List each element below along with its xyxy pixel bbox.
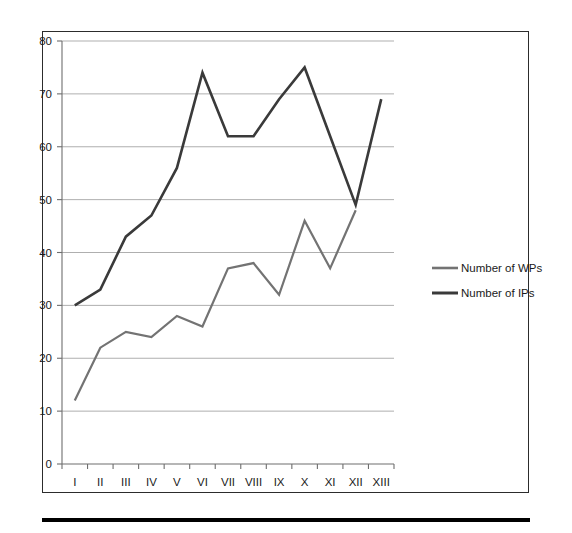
y-axis-tick-label: 40 [39,247,52,259]
y-axis-tick-label: 20 [39,352,52,364]
bottom-horizontal-rule [42,518,530,522]
x-axis-tick-label: I [73,476,76,488]
x-axis-tick-label: VI [197,476,208,488]
y-axis-group [57,41,62,464]
gridlines-group [62,41,394,411]
y-axis-tick-label: 60 [39,141,52,153]
y-axis-tick-label: 0 [46,458,52,470]
line-chart-plot: 01020304050607080 IIIIIIIVVVIVIIVIIIIXXX… [0,0,572,533]
x-axis-tick-label: IV [146,476,157,488]
x-axis-tick-label: IX [274,476,285,488]
y-axis-tick-label: 50 [39,194,52,206]
x-axis-tick-label: III [121,476,131,488]
x-tick-labels-group: IIIIIIIVVVIVIIVIIIIXXXIXIIXIII [73,476,390,488]
x-axis-tick-label: II [97,476,103,488]
x-axis-tick-label: VIII [245,476,262,488]
y-axis-tick-label: 30 [39,299,52,311]
legend-label: Number of WPs [461,262,542,274]
x-axis-tick-label: XI [325,476,336,488]
x-axis-tick-label: VII [221,476,235,488]
x-axis-tick-label: XII [349,476,363,488]
y-axis-tick-label: 10 [39,405,52,417]
y-tick-labels-group: 01020304050607080 [39,35,52,470]
x-axis-tick-label: V [173,476,181,488]
y-axis-tick-label: 80 [39,35,52,47]
figure-container: 01020304050607080 IIIIIIIVVVIVIIVIIIIXXX… [0,0,572,533]
legend-group: Number of WPsNumber of IPs [432,262,542,299]
x-axis-tick-label: XIII [373,476,390,488]
x-axis-group [62,464,394,469]
series-group [75,67,381,400]
x-axis-tick-label: X [301,476,309,488]
y-axis-tick-label: 70 [39,88,52,100]
legend-label: Number of IPs [461,287,535,299]
